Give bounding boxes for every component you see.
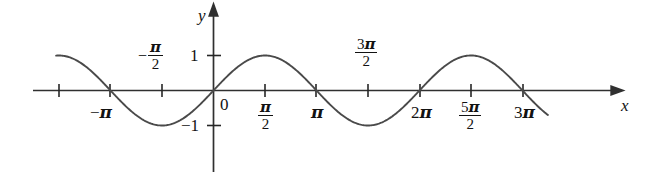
fraction-3pi-over-2: 3π 2 (355, 37, 377, 70)
x-tick-label-pi: π (311, 104, 323, 121)
numeral-three: 3 (357, 36, 365, 52)
y-tick-label-one: 1 (190, 47, 199, 64)
pi-glyph: π (420, 102, 432, 122)
x-tick-label-5pi-over-2: 5π 2 (459, 101, 481, 134)
numeral-two: 2 (411, 103, 420, 122)
pi-glyph: π (311, 102, 323, 122)
pi-glyph: π (365, 35, 376, 53)
fraction-denominator: 2 (464, 116, 476, 132)
plot-canvas (0, 0, 659, 178)
numeral-one: 1 (191, 116, 200, 135)
x-tick-label-neg-pi: −π (90, 104, 112, 121)
fraction-numerator: 5π (459, 100, 481, 116)
fraction-5pi-over-2: 5π 2 (459, 100, 481, 133)
minus-glyph: − (181, 116, 191, 135)
y-axis-label: y (198, 7, 206, 24)
fraction-numerator: 3π (355, 37, 377, 53)
fraction-numerator: π (258, 100, 273, 116)
x-tick-label-3pi-over-2: 3π 2 (355, 38, 377, 71)
origin-label: 0 (220, 96, 229, 113)
fraction-denominator: 2 (360, 53, 372, 69)
x-tick-label-neg-pi-over-2: − π 2 (138, 41, 163, 74)
x-axis-label: x (621, 97, 629, 114)
x-tick-label-3pi: 3π (514, 104, 535, 121)
fraction-pi-over-2: π 2 (258, 100, 273, 133)
fraction-numerator: π (148, 40, 163, 56)
minus-glyph: − (138, 48, 147, 64)
fraction-denominator: 2 (260, 116, 272, 132)
y-tick-label-neg-one: −1 (181, 117, 199, 134)
fraction-pi-over-2: π 2 (148, 40, 163, 73)
x-tick-label-pi-over-2: π 2 (258, 101, 273, 134)
x-tick-label-2pi: 2π (411, 104, 432, 121)
numeral-five: 5 (461, 99, 469, 115)
pi-glyph: π (523, 102, 535, 122)
numeral-three: 3 (514, 103, 523, 122)
pi-glyph: π (469, 98, 480, 116)
minus-glyph: − (90, 103, 100, 122)
sine-curve-figure: y x 0 1 −1 −π − π 2 π 2 π 3π 2 2π 5π (0, 0, 659, 178)
pi-glyph: π (100, 102, 112, 122)
fraction-denominator: 2 (150, 56, 162, 72)
